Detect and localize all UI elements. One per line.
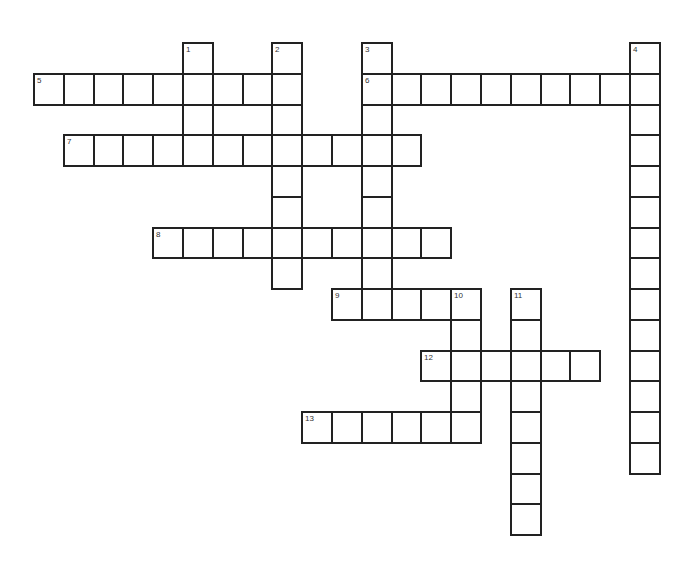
crossword-cell[interactable]	[629, 134, 661, 167]
crossword-cell[interactable]	[361, 227, 393, 259]
crossword-cell[interactable]	[510, 411, 542, 444]
crossword-cell[interactable]	[271, 257, 303, 290]
cell-letter-input[interactable]	[512, 475, 540, 503]
cell-letter-input[interactable]	[512, 505, 540, 534]
crossword-cell[interactable]: 5	[33, 73, 65, 106]
cell-letter-input[interactable]	[631, 229, 659, 257]
cell-letter-input[interactable]	[65, 75, 93, 104]
crossword-cell[interactable]	[540, 73, 571, 106]
cell-letter-input[interactable]	[303, 413, 331, 442]
cell-letter-input[interactable]	[452, 413, 480, 442]
crossword-cell[interactable]	[212, 134, 244, 167]
crossword-cell[interactable]	[301, 227, 333, 259]
crossword-cell[interactable]	[212, 227, 244, 259]
cell-letter-input[interactable]	[303, 136, 331, 165]
cell-letter-input[interactable]	[184, 136, 212, 165]
cell-letter-input[interactable]	[303, 229, 331, 257]
crossword-cell[interactable]	[629, 165, 661, 198]
cell-letter-input[interactable]	[422, 290, 450, 319]
crossword-cell[interactable]	[271, 73, 303, 106]
crossword-cell[interactable]	[93, 134, 124, 167]
crossword-cell[interactable]	[629, 288, 661, 321]
cell-letter-input[interactable]	[363, 259, 391, 288]
cell-letter-input[interactable]	[124, 136, 152, 165]
cell-letter-input[interactable]	[333, 290, 361, 319]
cell-letter-input[interactable]	[184, 44, 212, 73]
cell-letter-input[interactable]	[363, 136, 391, 165]
crossword-cell[interactable]	[450, 350, 482, 382]
crossword-cell[interactable]	[242, 227, 273, 259]
crossword-cell[interactable]	[122, 73, 154, 106]
crossword-cell[interactable]	[510, 503, 542, 536]
cell-letter-input[interactable]	[363, 167, 391, 196]
cell-letter-input[interactable]	[214, 136, 242, 165]
crossword-cell[interactable]: 11	[510, 288, 542, 321]
cell-letter-input[interactable]	[631, 198, 659, 227]
crossword-cell[interactable]	[599, 73, 631, 106]
cell-letter-input[interactable]	[512, 413, 540, 442]
crossword-cell[interactable]	[361, 104, 393, 136]
cell-letter-input[interactable]	[631, 106, 659, 134]
cell-letter-input[interactable]	[95, 75, 122, 104]
crossword-cell[interactable]	[629, 350, 661, 382]
cell-letter-input[interactable]	[512, 321, 540, 350]
crossword-cell[interactable]	[361, 257, 393, 290]
crossword-cell[interactable]	[450, 380, 482, 413]
crossword-cell[interactable]: 1	[182, 42, 214, 75]
crossword-cell[interactable]	[629, 380, 661, 413]
cell-letter-input[interactable]	[273, 167, 301, 196]
crossword-cell[interactable]	[629, 319, 661, 352]
crossword-cell[interactable]	[420, 227, 452, 259]
cell-letter-input[interactable]	[363, 44, 391, 73]
cell-letter-input[interactable]	[571, 75, 599, 104]
crossword-cell[interactable]	[271, 165, 303, 198]
crossword-cell[interactable]	[629, 411, 661, 444]
cell-letter-input[interactable]	[363, 290, 391, 319]
crossword-cell[interactable]	[510, 380, 542, 413]
crossword-cell[interactable]	[480, 350, 512, 382]
crossword-cell[interactable]	[63, 73, 95, 106]
cell-letter-input[interactable]	[393, 290, 420, 319]
cell-letter-input[interactable]	[512, 290, 540, 319]
cell-letter-input[interactable]	[154, 136, 182, 165]
crossword-cell[interactable]	[182, 104, 214, 136]
cell-letter-input[interactable]	[631, 444, 659, 473]
cell-letter-input[interactable]	[333, 413, 361, 442]
cell-letter-input[interactable]	[393, 229, 420, 257]
crossword-cell[interactable]	[420, 411, 452, 444]
cell-letter-input[interactable]	[631, 413, 659, 442]
crossword-cell[interactable]	[242, 134, 273, 167]
cell-letter-input[interactable]	[273, 44, 301, 73]
cell-letter-input[interactable]	[363, 75, 391, 104]
crossword-cell[interactable]: 3	[361, 42, 393, 75]
crossword-cell[interactable]	[361, 165, 393, 198]
crossword-cell[interactable]	[182, 227, 214, 259]
cell-letter-input[interactable]	[273, 198, 301, 227]
cell-letter-input[interactable]	[273, 229, 301, 257]
crossword-cell[interactable]	[331, 411, 363, 444]
cell-letter-input[interactable]	[273, 259, 301, 288]
cell-letter-input[interactable]	[184, 229, 212, 257]
crossword-cell[interactable]: 10	[450, 288, 482, 321]
cell-letter-input[interactable]	[422, 352, 450, 380]
cell-letter-input[interactable]	[244, 229, 271, 257]
crossword-cell[interactable]	[480, 73, 512, 106]
crossword-cell[interactable]	[271, 134, 303, 167]
crossword-cell[interactable]	[540, 350, 571, 382]
cell-letter-input[interactable]	[542, 75, 569, 104]
crossword-cell[interactable]	[182, 134, 214, 167]
cell-letter-input[interactable]	[154, 75, 182, 104]
cell-letter-input[interactable]	[363, 229, 391, 257]
crossword-cell[interactable]	[182, 73, 214, 106]
cell-letter-input[interactable]	[273, 75, 301, 104]
cell-letter-input[interactable]	[393, 413, 420, 442]
cell-letter-input[interactable]	[363, 106, 391, 134]
crossword-cell[interactable]	[629, 227, 661, 259]
cell-letter-input[interactable]	[333, 136, 361, 165]
crossword-cell[interactable]	[242, 73, 273, 106]
crossword-cell[interactable]	[510, 73, 542, 106]
cell-letter-input[interactable]	[452, 352, 480, 380]
crossword-cell[interactable]	[391, 134, 422, 167]
cell-letter-input[interactable]	[571, 352, 599, 380]
crossword-cell[interactable]	[361, 134, 393, 167]
